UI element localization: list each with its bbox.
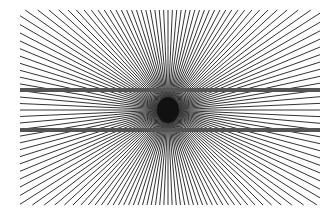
horizontal-bar bbox=[20, 128, 320, 132]
hering-illusion-figure bbox=[0, 0, 335, 217]
center-blob bbox=[157, 97, 179, 123]
horizontal-bar bbox=[20, 88, 320, 92]
